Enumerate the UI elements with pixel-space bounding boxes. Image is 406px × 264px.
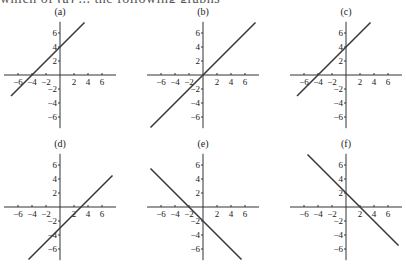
x-tick-label: −4 — [27, 209, 37, 219]
x-tick-label: 2 — [215, 77, 220, 87]
x-tick-label: −6 — [156, 77, 166, 87]
x-tick-label: 4 — [229, 209, 234, 219]
x-tick-label: 6 — [386, 77, 391, 87]
y-tick-label: 2 — [196, 56, 201, 66]
y-tick-label: −2 — [47, 84, 57, 94]
graph-panel-d: (d)−6−4−2246642−2−4−6 — [4, 138, 116, 260]
y-tick-label: 6 — [53, 160, 58, 170]
y-tick-label: −6 — [47, 244, 57, 254]
y-tick-label: 6 — [339, 28, 344, 38]
x-tick-label: 6 — [243, 77, 248, 87]
x-tick-label: 4 — [229, 77, 234, 87]
y-tick-label: −4 — [190, 98, 200, 108]
y-tick-label: 6 — [196, 28, 201, 38]
x-tick-label: 4 — [86, 77, 91, 87]
x-tick-label: −4 — [313, 209, 323, 219]
y-tick-label: −6 — [190, 112, 200, 122]
x-tick-label: −4 — [170, 77, 180, 87]
y-tick-label: 4 — [196, 42, 201, 52]
y-tick-label: 2 — [53, 56, 58, 66]
y-tick-label: 6 — [53, 28, 58, 38]
graphs-figure: (a)−6−4−2246642−2−4−6(b)−6−4−2246642−2−4… — [0, 0, 406, 264]
y-tick-label: 4 — [53, 174, 58, 184]
x-tick-label: 6 — [100, 209, 105, 219]
x-tick-label: 6 — [100, 77, 105, 87]
x-tick-label: 6 — [243, 209, 248, 219]
y-tick-label: −4 — [333, 98, 343, 108]
panel-label: (e) — [197, 138, 208, 150]
y-tick-label: −2 — [333, 216, 343, 226]
x-tick-label: 2 — [358, 77, 363, 87]
x-tick-label: 6 — [386, 209, 391, 219]
graph-panel-f: (f)−6−4−2246642−2−4−6 — [290, 138, 402, 260]
y-tick-label: 6 — [196, 160, 201, 170]
x-tick-label: 4 — [86, 209, 91, 219]
y-tick-label: 2 — [196, 188, 201, 198]
graph-line — [308, 155, 399, 246]
x-tick-label: 4 — [372, 209, 377, 219]
y-tick-label: 2 — [53, 188, 58, 198]
x-tick-label: −4 — [170, 209, 180, 219]
graph-panel-b: (b)−6−4−2246642−2−4−6 — [147, 6, 259, 128]
y-tick-label: 4 — [339, 174, 344, 184]
panel-label: (f) — [341, 138, 351, 150]
panel-label: (b) — [197, 6, 209, 18]
x-tick-label: −6 — [156, 209, 166, 219]
y-tick-label: −6 — [333, 244, 343, 254]
y-tick-label: −2 — [47, 216, 57, 226]
y-tick-label: −4 — [333, 230, 343, 240]
x-tick-label: −6 — [13, 209, 23, 219]
x-tick-label: 4 — [372, 77, 377, 87]
y-tick-label: 2 — [339, 56, 344, 66]
panel-label: (a) — [54, 6, 65, 18]
x-tick-label: 2 — [358, 209, 363, 219]
x-tick-label: −6 — [299, 209, 309, 219]
panel-label: (d) — [54, 138, 66, 150]
y-tick-label: −4 — [190, 230, 200, 240]
x-tick-label: 2 — [215, 209, 220, 219]
y-tick-label: 4 — [196, 174, 201, 184]
y-tick-label: −6 — [190, 244, 200, 254]
graph-panel-a: (a)−6−4−2246642−2−4−6 — [4, 6, 116, 128]
y-tick-label: −6 — [333, 112, 343, 122]
y-tick-label: −2 — [333, 84, 343, 94]
y-tick-label: −4 — [47, 98, 57, 108]
y-tick-label: 6 — [339, 160, 344, 170]
graph-panel-e: (e)−6−4−2246642−2−4−6 — [147, 138, 259, 260]
graph-panel-c: (c)−6−4−2246642−2−4−6 — [290, 6, 402, 128]
panel-label: (c) — [340, 6, 351, 18]
y-tick-label: −6 — [47, 112, 57, 122]
x-tick-label: 2 — [72, 77, 77, 87]
